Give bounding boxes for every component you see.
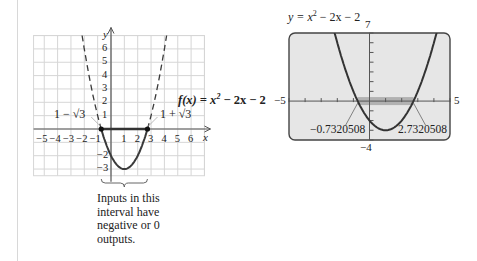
root-label-right: 1 + √3 (160, 107, 191, 122)
right-root-label-left: −0.7320508 (310, 123, 365, 135)
y-tick-label: −2 (97, 149, 108, 160)
function-label-prefix: f(x) = x (178, 93, 216, 107)
y-tick-label: 5 (102, 55, 107, 66)
y-tick-label: 4 (102, 69, 107, 80)
y-tick-label: −3 (97, 162, 108, 173)
right-ymax-label: 7 (365, 18, 371, 30)
x-tick-label: −2 (76, 133, 87, 144)
x-tick-label: 3 (148, 133, 153, 144)
x-tick-label: −3 (63, 133, 74, 144)
caption-line-3: negative or 0 (97, 219, 177, 233)
function-label-suffix: − 2x − 2 (220, 93, 266, 107)
caption-line-4: outputs. (97, 233, 177, 247)
y-tick-label: 1 (102, 109, 107, 120)
right-title-suffix: − 2x − 2 (317, 10, 361, 24)
x-tick-label: −4 (50, 133, 61, 144)
caption-line-2: interval have (97, 206, 177, 220)
left-y-axis-label: y (103, 28, 108, 40)
y-tick-label: 2 (102, 95, 107, 106)
right-root-label-right: 2.7320508 (398, 123, 447, 135)
function-label: f(x) = x2 − 2x − 2 (178, 92, 266, 108)
right-xmin-label: −5 (274, 94, 286, 106)
x-tick-label: 4 (161, 133, 166, 144)
y-tick-label: 6 (102, 42, 107, 53)
x-tick-label: 6 (188, 133, 193, 144)
root-label-left: 1 − √3 (54, 107, 85, 122)
right-chart-title: y = x2 − 2x − 2 (288, 9, 360, 25)
x-tick-label: 5 (175, 133, 180, 144)
x-tick-label: 1 (121, 133, 126, 144)
x-tick-label: −1 (90, 133, 101, 144)
x-tick-label: −5 (36, 133, 47, 144)
right-ymin-label: −4 (360, 141, 372, 153)
right-title-prefix: y = x (288, 10, 313, 24)
left-x-axis-label: x (203, 131, 208, 143)
right-xmax-label: 5 (454, 94, 460, 106)
x-tick-label: 2 (135, 133, 140, 144)
y-tick-label: 3 (102, 82, 107, 93)
interval-caption: Inputs in this interval have negative or… (97, 192, 177, 246)
caption-line-1: Inputs in this (97, 192, 177, 206)
